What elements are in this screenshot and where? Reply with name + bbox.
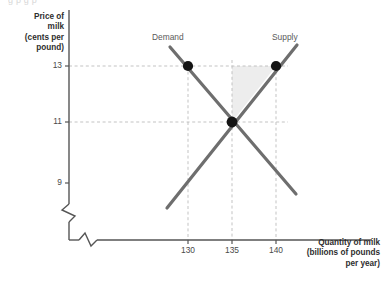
supply-curve-label: Supply	[272, 33, 298, 42]
y-axis-title-line-2: milk	[6, 22, 64, 32]
x-axis-title-line-1: Quantity of milk	[300, 238, 380, 248]
x-axis-title: Quantity of milk (billions of pounds per…	[300, 238, 380, 269]
y-tick-label-9: 9	[44, 178, 62, 187]
y-axis-title-line-1: Price of	[6, 12, 64, 22]
supply-demand-chart: g p g p	[0, 0, 383, 296]
y-tick-label-11: 11	[44, 117, 62, 126]
y-tick-label-13: 13	[44, 61, 62, 70]
x-tick-label-130: 130	[175, 246, 201, 255]
x-axis-title-line-3: per year)	[300, 259, 380, 269]
y-axis-title-line-3: (cents per	[6, 33, 64, 43]
surplus-wedge-region	[232, 66, 276, 122]
x-tick-label-140: 140	[263, 246, 289, 255]
x-axis-title-line-2: (billions of pounds	[300, 248, 380, 258]
y-axis-title-line-4: pound)	[6, 43, 64, 53]
marker-demand-at-price-13	[183, 61, 193, 71]
y-axis-title: Price of milk (cents per pound)	[6, 12, 64, 54]
x-tick-label-135: 135	[219, 246, 245, 255]
marker-supply-at-price-13	[271, 61, 281, 71]
demand-curve-label: Demand	[152, 33, 184, 42]
marker-equilibrium	[227, 117, 238, 128]
